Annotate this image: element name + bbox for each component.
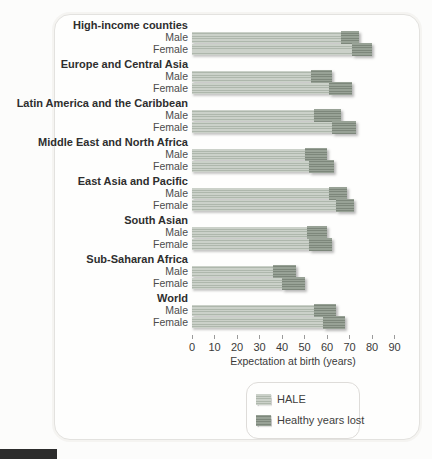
hale-bar-segment bbox=[192, 44, 352, 55]
x-axis-tick-label: 40 bbox=[276, 341, 288, 353]
healthy-years-lost-bar-segment bbox=[352, 43, 372, 56]
hale-swatch-icon bbox=[256, 394, 271, 405]
hale-bar-segment bbox=[192, 239, 309, 250]
x-axis-tick bbox=[237, 335, 238, 339]
x-axis-tick-label: 60 bbox=[321, 341, 333, 353]
hale-bar-segment bbox=[192, 149, 305, 160]
sex-label: Male bbox=[165, 149, 188, 160]
sex-label: Female bbox=[153, 239, 188, 250]
x-axis-tick bbox=[259, 335, 260, 339]
sex-label: Female bbox=[153, 161, 188, 172]
region-label: Middle East and North Africa bbox=[38, 136, 188, 148]
x-axis-tick bbox=[372, 335, 373, 339]
legend-box: HALE Healthy years lost bbox=[246, 382, 360, 439]
sex-label: Male bbox=[165, 227, 188, 238]
scan-artifact-black-bar bbox=[0, 449, 57, 459]
hale-bar-segment bbox=[192, 83, 329, 94]
healthy-years-lost-bar-segment bbox=[336, 199, 354, 212]
x-axis-tick bbox=[349, 335, 350, 339]
sex-label: Female bbox=[153, 122, 188, 133]
x-axis-tick-label: 0 bbox=[189, 341, 195, 353]
hale-bar-segment bbox=[192, 200, 336, 211]
legend-label-hale: HALE bbox=[277, 393, 306, 405]
x-axis-tick bbox=[304, 335, 305, 339]
sex-label: Male bbox=[165, 305, 188, 316]
sex-label: Female bbox=[153, 44, 188, 55]
x-axis-tick-label: 50 bbox=[298, 341, 310, 353]
region-label: World bbox=[157, 292, 188, 304]
region-label: High-income counties bbox=[73, 19, 188, 31]
x-axis-tick bbox=[282, 335, 283, 339]
region-label: Europe and Central Asia bbox=[61, 58, 188, 70]
sex-label: Female bbox=[153, 83, 188, 94]
healthy-years-lost-bar-segment bbox=[332, 121, 357, 134]
sex-label: Female bbox=[153, 317, 188, 328]
sex-label: Male bbox=[165, 110, 188, 121]
healthy-years-lost-bar-segment bbox=[323, 316, 346, 329]
x-axis-tick-label: 80 bbox=[366, 341, 378, 353]
hale-bar-segment bbox=[192, 188, 329, 199]
hale-bar-segment bbox=[192, 227, 307, 238]
hale-bar-segment bbox=[192, 110, 314, 121]
legend-entry-healthy-years-lost: Healthy years lost bbox=[256, 414, 364, 426]
x-axis-tick-label: 30 bbox=[253, 341, 265, 353]
hale-bar-segment bbox=[192, 317, 323, 328]
sex-label: Male bbox=[165, 266, 188, 277]
healthy-years-lost-bar-segment bbox=[309, 160, 334, 173]
sex-label: Female bbox=[153, 200, 188, 211]
scanned-figure-page: High-income countiesMaleFemaleEurope and… bbox=[0, 0, 432, 459]
healthy-years-lost-bar-segment bbox=[282, 277, 305, 290]
hale-bar-segment bbox=[192, 305, 314, 316]
x-axis-tick-label: 20 bbox=[231, 341, 243, 353]
region-label: East Asia and Pacific bbox=[78, 175, 188, 187]
legend-entry-hale: HALE bbox=[256, 393, 306, 405]
sex-label: Female bbox=[153, 278, 188, 289]
region-label: South Asian bbox=[124, 214, 188, 226]
x-axis-tick bbox=[394, 335, 395, 339]
hale-bar-segment bbox=[192, 266, 273, 277]
hale-bar-segment bbox=[192, 71, 311, 82]
legend-label-healthy-years-lost: Healthy years lost bbox=[277, 414, 364, 426]
x-axis-tick-label: 70 bbox=[343, 341, 355, 353]
x-axis-tick bbox=[327, 335, 328, 339]
hale-bar-segment bbox=[192, 161, 309, 172]
region-label: Latin America and the Caribbean bbox=[17, 97, 188, 109]
sex-label: Male bbox=[165, 71, 188, 82]
healthy-years-lost-bar-segment bbox=[309, 238, 332, 251]
sex-label: Male bbox=[165, 188, 188, 199]
x-axis-label: Expectation at birth (years) bbox=[230, 355, 355, 367]
hale-bar-segment bbox=[192, 278, 282, 289]
x-axis-tick bbox=[214, 335, 215, 339]
x-axis-tick-label: 10 bbox=[208, 341, 220, 353]
x-axis-tick bbox=[192, 335, 193, 339]
hale-bar-segment bbox=[192, 122, 332, 133]
sex-label: Male bbox=[165, 32, 188, 43]
x-axis-tick-label: 90 bbox=[388, 341, 400, 353]
healthy-years-lost-bar-segment bbox=[329, 82, 352, 95]
healthy-years-lost-swatch-icon bbox=[256, 415, 271, 426]
region-label: Sub-Saharan Africa bbox=[86, 253, 188, 265]
hale-bar-segment bbox=[192, 32, 341, 43]
